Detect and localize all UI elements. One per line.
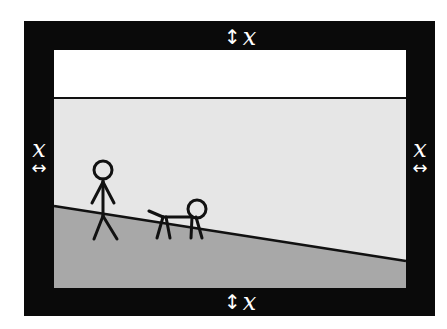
left-dimension-label: x ↔: [27, 137, 51, 175]
vertical-arrow-icon: ↕: [224, 290, 241, 314]
top-dimension-label: ↕ x: [224, 25, 256, 49]
horizontal-arrow-icon: ↔: [31, 161, 46, 175]
horizontal-arrow-icon: ↔: [412, 161, 427, 175]
diagram-scene: [0, 0, 447, 329]
vertical-arrow-icon: ↕: [224, 25, 241, 49]
bottom-dimension-label: ↕ x: [224, 290, 256, 314]
right-dimension-label: x ↔: [408, 137, 432, 175]
sky-region: [54, 50, 406, 98]
bottom-x-label: x: [243, 290, 257, 314]
top-x-label: x: [243, 25, 257, 49]
